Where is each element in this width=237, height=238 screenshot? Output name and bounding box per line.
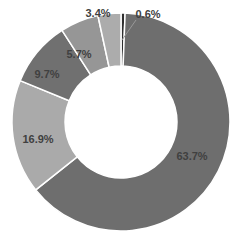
slice-label: 16.9% xyxy=(22,133,53,145)
slice-label: 63.7% xyxy=(176,150,207,162)
slice-label: 5.7% xyxy=(66,48,91,60)
slice-label: 0.6% xyxy=(135,8,160,20)
donut-chart: 0.6%63.7%16.9%9.7%5.7%3.4% xyxy=(0,0,237,238)
slice-label: 3.4% xyxy=(85,7,110,19)
donut-slices xyxy=(12,13,230,231)
slice-label: 9.7% xyxy=(34,68,59,80)
